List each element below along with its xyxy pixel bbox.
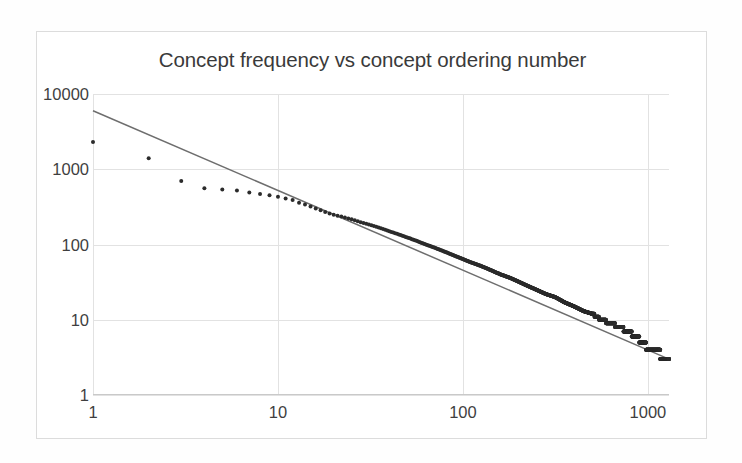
chart-card: Concept frequency vs concept ordering nu… — [36, 31, 707, 439]
data-point — [343, 216, 347, 220]
y-tick-label: 10000 — [43, 85, 89, 104]
trendline-series — [93, 111, 669, 359]
y-axis-tick-labels: 100001000100101 — [27, 94, 89, 395]
data-point — [202, 186, 206, 190]
data-layer — [93, 94, 669, 395]
x-tick-label: 1000 — [630, 403, 667, 422]
data-point — [179, 179, 183, 183]
data-point — [284, 196, 288, 200]
gridline-horizontal — [93, 395, 669, 396]
data-point — [220, 187, 224, 191]
y-tick-label: 10 — [71, 310, 89, 329]
data-point — [268, 193, 272, 197]
data-point — [621, 325, 625, 329]
data-point — [147, 156, 151, 160]
data-point — [297, 201, 301, 205]
data-point — [613, 321, 617, 325]
data-point — [637, 334, 641, 338]
data-point — [667, 357, 671, 361]
data-point — [258, 192, 262, 196]
data-point — [314, 207, 318, 211]
data-point — [323, 210, 327, 214]
data-point — [604, 318, 608, 322]
plot-area — [93, 94, 669, 395]
data-point — [630, 329, 634, 333]
data-point — [328, 212, 332, 216]
data-point — [319, 208, 323, 212]
data-point — [91, 140, 95, 144]
data-point — [276, 195, 280, 199]
data-point — [235, 189, 239, 193]
data-point — [303, 203, 307, 207]
x-tick-label: 100 — [449, 403, 477, 422]
x-tick-label: 10 — [269, 403, 287, 422]
data-point — [309, 204, 313, 208]
scatter-series — [91, 140, 671, 361]
data-point — [247, 191, 251, 195]
data-point — [658, 348, 662, 352]
data-point — [332, 213, 336, 217]
trendline — [93, 111, 669, 359]
x-axis-tick-labels: 1101001000 — [93, 403, 669, 429]
data-point — [644, 340, 648, 344]
chart-title: Concept frequency vs concept ordering nu… — [37, 48, 708, 72]
data-point — [336, 214, 340, 218]
y-tick-label: 100 — [61, 235, 89, 254]
data-point — [291, 198, 295, 202]
y-tick-label: 1000 — [52, 160, 89, 179]
data-point — [339, 215, 343, 219]
x-tick-label: 1 — [88, 403, 97, 422]
y-tick-label: 1 — [80, 386, 89, 405]
